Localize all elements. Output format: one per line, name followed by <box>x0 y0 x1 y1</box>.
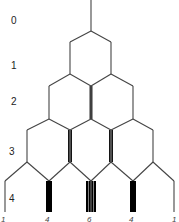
bottom-count-1: 1 <box>1 215 5 222</box>
bottom-count-5: 1 <box>172 215 176 222</box>
bottom-count-2: 4 <box>45 215 50 222</box>
row-label-0: 0 <box>11 15 17 26</box>
bottom-count-3: 6 <box>87 215 92 222</box>
row-label-2: 2 <box>11 96 17 107</box>
row-3-segments <box>5 130 174 181</box>
row-2-segments <box>27 86 153 130</box>
pascal-lattice-diagram: 0 1 2 3 4 1 4 6 4 1 <box>0 0 179 222</box>
bottom-count-4: 4 <box>129 215 134 222</box>
row-4-segments <box>5 181 174 212</box>
row-label-4: 4 <box>9 193 15 204</box>
row-label-3: 3 <box>9 146 15 157</box>
row-1-segments <box>49 42 133 86</box>
row-label-1: 1 <box>11 60 17 71</box>
row-0-segments <box>70 0 111 42</box>
